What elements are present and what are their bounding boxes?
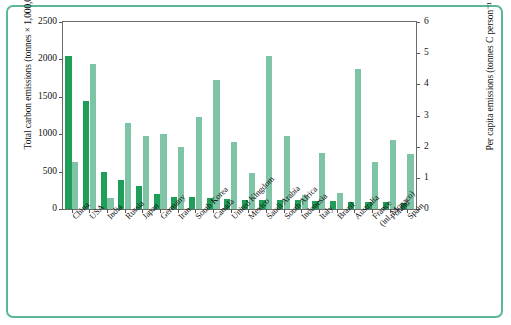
- x-axis-tick-mark: [142, 209, 143, 213]
- x-axis-tick-mark: [195, 209, 196, 213]
- x-axis-tick-mark: [284, 209, 285, 213]
- bar-chart: Total carbon emissions (tonnes × 1,000,0…: [0, 0, 511, 325]
- x-axis-tick-mark: [89, 209, 90, 213]
- y-axis-right-tick-label: 2: [424, 141, 444, 151]
- bar-total-emissions: [189, 197, 195, 209]
- x-axis-tick-mark: [72, 209, 73, 213]
- x-axis-tick-mark: [213, 209, 214, 213]
- y-axis-right-tick-label: 3: [424, 110, 444, 120]
- x-axis-tick-mark: [160, 209, 161, 213]
- y-axis-right-tick-label: 0: [424, 203, 444, 213]
- x-axis-tick-mark: [354, 209, 355, 213]
- bar-per-capita-emissions: [355, 69, 361, 209]
- bar-per-capita-emissions: [160, 134, 166, 209]
- y-axis-right-tick-label: 5: [424, 47, 444, 57]
- y-axis-left-tick-label: 1500: [23, 91, 57, 101]
- y-axis-right-tick-label: 4: [424, 78, 444, 88]
- bar-per-capita-emissions: [196, 117, 202, 209]
- x-axis-tick-mark: [125, 209, 126, 213]
- x-axis-tick-mark: [337, 209, 338, 213]
- x-axis-tick-mark: [266, 209, 267, 213]
- bar-per-capita-emissions: [90, 64, 96, 209]
- y-axis-left-tick-label: 0: [23, 203, 57, 213]
- x-axis-tick-mark: [372, 209, 373, 213]
- x-axis-tick-mark: [407, 209, 408, 213]
- y-axis-left-tick-label: 1000: [23, 128, 57, 138]
- y-axis-left-tick-label: 2000: [23, 53, 57, 63]
- bar-per-capita-emissions: [143, 136, 149, 209]
- y-axis-right-tick-label: 6: [424, 16, 444, 26]
- x-axis-tick-mark: [301, 209, 302, 213]
- plot-area: [63, 22, 416, 209]
- bar-total-emissions: [65, 56, 71, 209]
- bar-total-emissions: [83, 101, 89, 209]
- x-axis-tick-mark: [107, 209, 108, 213]
- x-axis-tick-mark: [231, 209, 232, 213]
- x-axis-tick-mark: [319, 209, 320, 213]
- bar-per-capita-emissions: [125, 123, 131, 209]
- y-axis-right-tick-label: 1: [424, 172, 444, 182]
- x-axis-tick-mark: [248, 209, 249, 213]
- x-axis-tick-mark: [390, 209, 391, 213]
- y-axis-right-title: Per capita emissions (tonnes C person⁻¹ …: [484, 0, 495, 168]
- x-axis-tick-mark: [178, 209, 179, 213]
- bar-per-capita-emissions: [72, 162, 78, 209]
- y-axis-left-tick-label: 500: [23, 166, 57, 176]
- y-axis-right-line: [416, 21, 417, 210]
- bar-total-emissions: [101, 172, 107, 209]
- y-axis-left-tick-label: 2500: [23, 16, 57, 26]
